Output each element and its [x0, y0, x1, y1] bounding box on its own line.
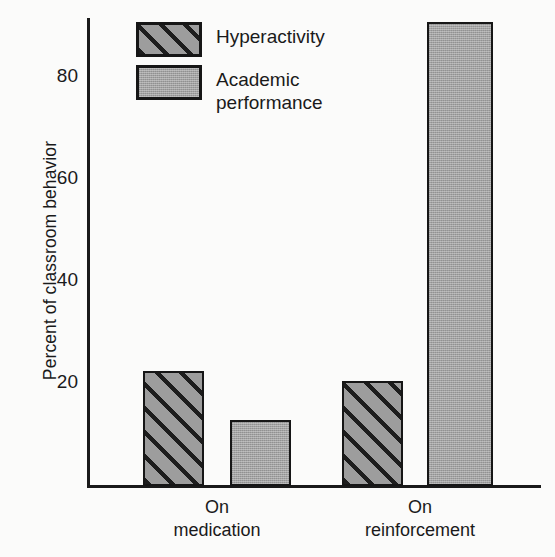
x-axis-label-group-1: On medication [143, 496, 291, 542]
legend-label-academic-performance: Academic performance [216, 65, 323, 114]
y-tick-label-40: 40 [57, 269, 78, 291]
bar-academic-performance-on-medication [230, 420, 291, 486]
y-tick-label-60: 60 [57, 167, 78, 189]
legend-label-hyperactivity: Hyperactivity [216, 22, 325, 48]
solid-gray-swatch-icon [136, 65, 202, 100]
bar-hyperactivity-on-reinforcement [342, 381, 403, 486]
x-axis-label-group-2: On reinforcement [340, 496, 500, 542]
y-tick-label-80: 80 [57, 65, 78, 87]
legend-item-hyperactivity: Hyperactivity [136, 22, 325, 57]
y-axis-title: Percent of classroom behavior [40, 111, 61, 411]
bar-hyperactivity-on-medication [143, 371, 204, 486]
hatched-swatch-icon [136, 22, 202, 57]
y-tick-label-20: 20 [57, 371, 78, 393]
legend-item-academic-performance: Academic performance [136, 65, 323, 114]
bar-chart: Percent of classroom behavior 80 60 40 2… [0, 0, 555, 557]
y-axis-line [87, 18, 90, 488]
bar-academic-performance-on-reinforcement [427, 22, 493, 486]
